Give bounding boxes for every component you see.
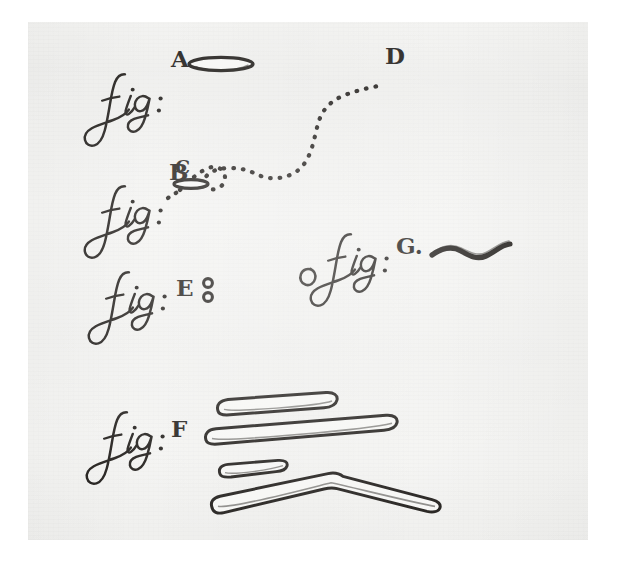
figure-b-label [85,186,163,257]
figure-b-group: B C [85,156,208,258]
figure-f-letter: F [171,415,188,442]
figure-a-letter: A [170,45,190,72]
figure-a-ellipse [189,57,253,70]
script-fig-text-e [89,272,167,343]
figure-f-rod-2 [205,415,397,444]
figure-e-ring-lower [204,293,213,302]
figure-e-group: E [89,272,213,343]
figure-g-letter: G. [396,232,423,259]
figure-f-rod-4-bent [211,473,440,513]
paper-sheet: A D B C [28,22,588,540]
trail-dots-main [180,85,384,190]
script-fig-text-g [311,234,389,305]
figure-d-letter: D [385,42,405,69]
script-fig-text-a [85,74,163,145]
script-fig-text-f [87,412,165,483]
figure-a-group: A [85,45,253,146]
figure-e-ring-upper [204,279,213,288]
figure-d-group: D [385,42,405,69]
illustration-plate: A D B C [0,0,618,570]
figure-artwork: A D B C [28,22,588,540]
figure-f-label [87,412,165,483]
figure-g-label [311,234,389,305]
figure-c-letter: C [175,156,190,178]
figure-e-letter: E [176,274,194,301]
figure-g-flourish [300,269,315,285]
script-fig-text-b [85,186,163,257]
figure-g-group: G. [300,232,510,306]
flourish-icon [300,269,315,285]
figure-f-group: F [87,393,440,514]
figure-e-label [89,272,167,343]
figure-a-label [85,74,163,145]
figure-f-rod-3 [219,460,287,477]
